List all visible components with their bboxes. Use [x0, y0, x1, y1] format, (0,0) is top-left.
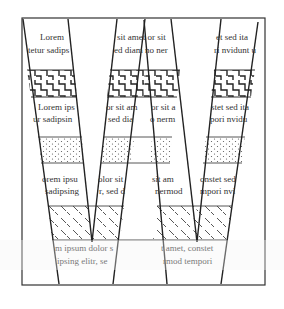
svg-text:nermod: nermod — [155, 186, 183, 196]
zigzag-band — [27, 70, 255, 97]
svg-text:sadipsing: sadipsing — [45, 186, 80, 196]
svg-text:pori nvidu: pori nvidu — [210, 114, 248, 124]
svg-text:sit am: sit am — [152, 174, 174, 184]
text-band-2: Lorem ips ur sadipsin or sit am sed dia … — [33, 102, 249, 124]
w-diagram: Lorem tetur sadips sit amet or sit ed di… — [0, 0, 284, 309]
svg-text:stet sed ita: stet sed ita — [211, 102, 249, 112]
dotted-band — [38, 137, 245, 163]
svg-text:orem ipsu: orem ipsu — [42, 174, 78, 184]
diagonal-dash-band — [48, 206, 232, 240]
svg-text:tetur sadips: tetur sadips — [28, 45, 70, 55]
svg-text:r, sed d: r, sed d — [99, 186, 125, 196]
svg-text:olor sit: olor sit — [98, 174, 124, 184]
svg-text:Lorem: Lorem — [40, 32, 64, 42]
svg-text:ed diam no ner: ed diam no ner — [114, 45, 168, 55]
svg-text:or sit a: or sit a — [151, 102, 176, 112]
svg-text:ri nvidunt u: ri nvidunt u — [214, 45, 256, 55]
text-band-3: orem ipsu sadipsing olor sit r, sed d si… — [42, 174, 236, 196]
svg-text:onstet sed: onstet sed — [200, 174, 236, 184]
svg-text:sit amet or sit: sit amet or sit — [117, 32, 166, 42]
lower-band-shading — [0, 240, 284, 270]
svg-text:sed dia: sed dia — [108, 114, 133, 124]
svg-text:Lorem ips: Lorem ips — [38, 102, 75, 112]
svg-text:o nerm: o nerm — [150, 114, 175, 124]
svg-text:ur sadipsin: ur sadipsin — [33, 114, 73, 124]
svg-text:mpori nvi: mpori nvi — [200, 186, 236, 196]
svg-text:et sed ita: et sed ita — [216, 32, 248, 42]
svg-text:or sit am: or sit am — [106, 102, 138, 112]
